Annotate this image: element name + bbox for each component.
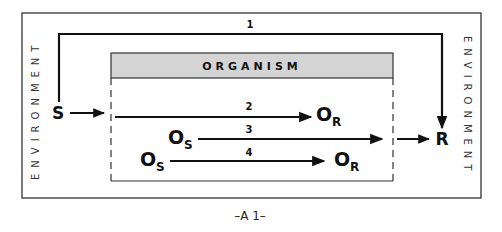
organism-label: ORGANISM: [202, 60, 302, 73]
svg-text:R: R: [332, 115, 341, 129]
svg-text:R: R: [350, 160, 359, 174]
svg-text:O: O: [316, 103, 332, 125]
stimulus-response-diagram: ENVIRONMENT ENVIRONMENT 1 ORGANISM S 2 O…: [0, 0, 502, 232]
path-2-label: 2: [246, 101, 253, 112]
path-3-label: 3: [246, 124, 253, 135]
figure-caption: –A 1–: [234, 209, 266, 223]
o-s-node-2: O S: [140, 148, 165, 174]
svg-text:O: O: [140, 148, 156, 170]
svg-text:S: S: [184, 138, 193, 152]
svg-text:S: S: [156, 160, 165, 174]
o-r-node-1: O R: [316, 103, 341, 129]
o-r-node-2: O R: [334, 148, 359, 174]
environment-label-right: ENVIRONMENT: [462, 36, 473, 176]
path-1-line: [59, 34, 442, 128]
response-node: R: [435, 129, 448, 149]
o-s-node-1: O S: [168, 126, 193, 152]
path-4-label: 4: [246, 147, 253, 158]
path-1-label: 1: [247, 19, 254, 30]
stimulus-node: S: [52, 103, 64, 123]
environment-label-left: ENVIRONMENT: [30, 40, 41, 180]
svg-text:O: O: [168, 126, 184, 148]
svg-text:O: O: [334, 148, 350, 170]
